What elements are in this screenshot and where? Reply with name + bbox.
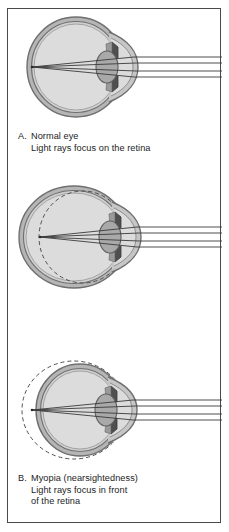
lens bbox=[95, 394, 117, 426]
incoming-light-rays bbox=[134, 57, 222, 77]
caption-description-line: Light rays focus on the retina bbox=[31, 143, 150, 153]
incoming-light-rays bbox=[137, 227, 222, 247]
caption-letter: A. bbox=[18, 131, 31, 143]
lens bbox=[96, 51, 118, 83]
eye-refraction-figure: A.Normal eye Light rays focus on the ret… bbox=[0, 0, 229, 532]
figure-border: A.Normal eye Light rays focus on the ret… bbox=[7, 8, 221, 523]
panel-myopia: B.Myopia (nearsightedness) Light rays fo… bbox=[8, 177, 222, 353]
focal-point bbox=[31, 66, 34, 69]
myopia-eye-diagram bbox=[8, 177, 222, 301]
caption-normal-eye: A.Normal eye Light rays focus on the ret… bbox=[18, 131, 218, 154]
hyperopia-eye-diagram bbox=[8, 353, 222, 473]
caption-title: Normal eye bbox=[31, 131, 78, 141]
panel-hyperopia: C.Hyperopia (farsightedness) Light rays … bbox=[8, 353, 222, 523]
lens bbox=[99, 221, 121, 253]
normal-eye-diagram bbox=[8, 9, 222, 129]
incoming-light-rays bbox=[133, 400, 222, 420]
focal-point bbox=[39, 236, 42, 239]
focal-point bbox=[31, 409, 34, 412]
panel-normal-eye: A.Normal eye Light rays focus on the ret… bbox=[8, 9, 222, 181]
